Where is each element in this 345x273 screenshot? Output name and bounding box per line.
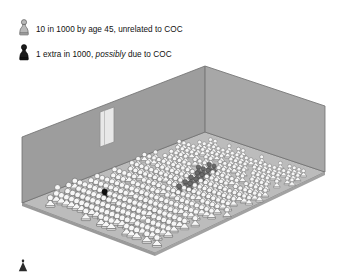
legend-baseline-label: 10 in 1000 by age 45, unrelated to COC xyxy=(36,26,183,34)
risk-pictogram-figure xyxy=(0,0,345,273)
legend-baseline-swatch xyxy=(18,20,30,40)
legend-extra-label: 1 extra in 1000, possibly due to COC xyxy=(36,51,172,59)
door[interactable] xyxy=(100,107,114,147)
door-panel xyxy=(100,107,114,147)
legend-item-extra: 1 extra in 1000, possibly due to COC xyxy=(18,45,172,65)
legend-extra-swatch xyxy=(18,45,30,65)
legend-item-baseline: 10 in 1000 by age 45, unrelated to COC xyxy=(18,20,183,40)
footer-pawn-mark xyxy=(19,260,27,272)
